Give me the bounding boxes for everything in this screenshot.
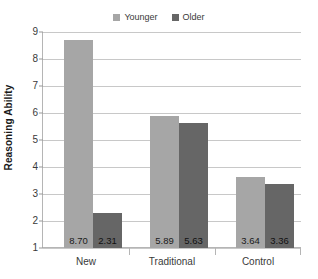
y-tick-label-6: 6 — [32, 108, 38, 118]
y-tick-mark-8 — [39, 59, 43, 60]
x-tick-label-control: Control — [242, 257, 274, 267]
bar-traditional-younger[interactable]: 5.89 — [150, 116, 179, 248]
y-tick-mark-4 — [39, 167, 43, 168]
category-separator-2 — [215, 248, 216, 255]
y-tick-label-9: 9 — [32, 27, 38, 37]
y-tick-label-8: 8 — [32, 54, 38, 64]
x-tick-label-new: New — [76, 257, 96, 267]
y-tick-mark-5 — [39, 140, 43, 141]
y-tick-mark-1 — [39, 248, 43, 249]
y-tick-label-4: 4 — [32, 162, 38, 172]
bar-control-younger[interactable]: 3.64 — [236, 177, 265, 248]
chart-legend: Younger Older — [0, 9, 318, 25]
gridline-9: 9 — [43, 32, 301, 33]
y-axis-title: Reasoning Ability — [0, 0, 18, 255]
y-tick-label-1: 1 — [32, 243, 38, 253]
category-separator-1 — [129, 248, 130, 255]
y-tick-mark-2 — [39, 221, 43, 222]
y-tick-mark-7 — [39, 86, 43, 87]
plot-area: 9 8 7 6 5 4 3 2 — [43, 32, 301, 248]
bar-label-control-younger: 3.64 — [236, 236, 265, 246]
x-tick-label-traditional: Traditional — [149, 257, 195, 267]
y-tick-mark-9 — [39, 32, 43, 33]
legend-entry-older: Older — [172, 13, 205, 22]
legend-swatch-younger — [113, 14, 120, 21]
y-tick-mark-3 — [39, 194, 43, 195]
legend-entry-younger: Younger — [113, 13, 157, 22]
bar-label-traditional-older: 5.63 — [179, 236, 208, 246]
bar-traditional-older[interactable]: 5.63 — [179, 123, 208, 248]
bar-label-control-older: 3.36 — [265, 236, 294, 246]
y-axis-title-text: Reasoning Ability — [4, 85, 15, 171]
bar-control-older[interactable]: 3.36 — [265, 184, 294, 248]
bar-label-new-older: 2.31 — [93, 236, 122, 246]
category-separator-3 — [300, 248, 301, 255]
bar-new-older[interactable]: 2.31 — [93, 213, 122, 248]
bar-label-new-younger: 8.70 — [64, 236, 93, 246]
y-tick-label-2: 2 — [32, 216, 38, 226]
legend-label-younger: Younger — [124, 13, 157, 22]
bar-new-younger[interactable]: 8.70 — [64, 40, 93, 248]
y-tick-mark-6 — [39, 113, 43, 114]
gridline-1: 1 — [43, 248, 301, 249]
bar-label-traditional-younger: 5.89 — [150, 236, 179, 246]
legend-label-older: Older — [183, 13, 205, 22]
y-tick-label-3: 3 — [32, 189, 38, 199]
legend-swatch-older — [172, 14, 179, 21]
y-tick-label-5: 5 — [32, 135, 38, 145]
y-tick-label-7: 7 — [32, 81, 38, 91]
bar-chart: Younger Older Reasoning Ability 9 8 7 6 — [0, 0, 318, 279]
